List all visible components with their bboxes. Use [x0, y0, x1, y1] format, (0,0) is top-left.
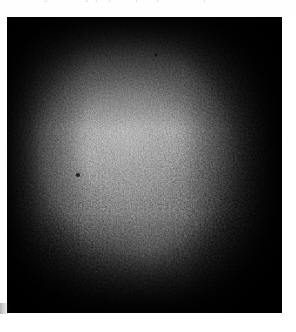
image-blemish [154, 53, 157, 56]
noisy-photograph-svg [7, 17, 282, 313]
figure-image [7, 17, 282, 313]
page-margin-right [282, 14, 296, 316]
image-blemish [76, 173, 80, 177]
page-margin-bottom [0, 313, 296, 332]
figure-caption-text: Figure 1. Photograph of the sample surfa… [0, 0, 296, 4]
page-margin-left [0, 14, 7, 316]
figure-caption: Figure 1. Photograph of the sample surfa… [0, 0, 296, 6]
page-canvas: Figure 1. Photograph of the sample surfa… [0, 0, 296, 332]
